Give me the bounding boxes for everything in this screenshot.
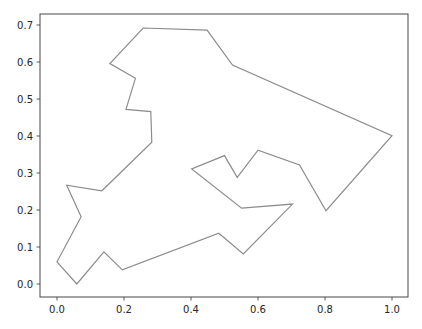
x-tick-label: 0.4 bbox=[183, 304, 199, 315]
y-axis: 0.00.10.20.30.40.50.60.7 bbox=[17, 20, 40, 290]
y-tick-label: 0.1 bbox=[17, 242, 33, 253]
y-tick-label: 0.0 bbox=[17, 279, 33, 290]
x-tick-label: 0.0 bbox=[49, 304, 65, 315]
y-tick-label: 0.3 bbox=[17, 168, 33, 179]
chart: 0.00.20.40.60.81.0 0.00.10.20.30.40.50.6… bbox=[0, 0, 422, 329]
x-tick-label: 1.0 bbox=[384, 304, 400, 315]
x-axis: 0.00.20.40.60.81.0 bbox=[49, 297, 400, 315]
y-tick-label: 0.7 bbox=[17, 20, 33, 31]
y-tick-label: 0.5 bbox=[17, 94, 33, 105]
x-tick-label: 0.8 bbox=[317, 304, 333, 315]
y-tick-label: 0.4 bbox=[17, 131, 33, 142]
x-tick-label: 0.2 bbox=[116, 304, 132, 315]
y-tick-label: 0.6 bbox=[17, 57, 33, 68]
y-tick-label: 0.2 bbox=[17, 205, 33, 216]
x-tick-label: 0.6 bbox=[250, 304, 266, 315]
